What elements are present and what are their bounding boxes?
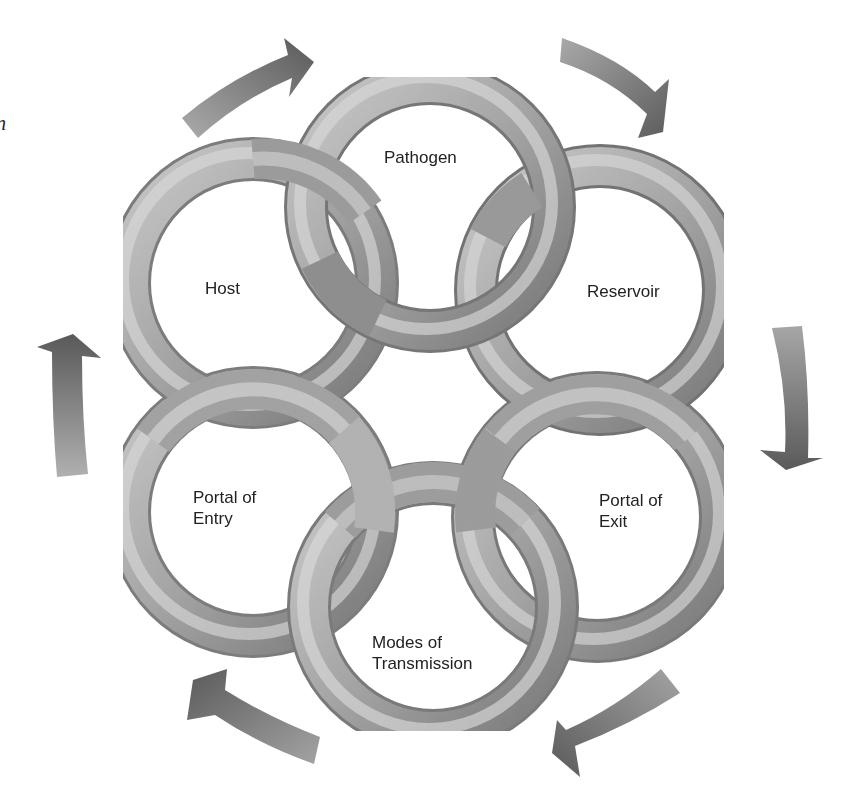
arrow-pathogen-to-reservoir-icon	[560, 38, 669, 138]
arrow-exit-to-transmission-icon	[552, 669, 680, 777]
chain-of-infection-diagram: Pathogen Host Reservoir Portal of Entry …	[0, 0, 856, 801]
label-pathogen: Pathogen	[384, 147, 457, 168]
label-reservoir: Reservoir	[587, 281, 660, 302]
arrow-entry-to-host-icon	[37, 334, 101, 477]
label-modes-of-transmission: Modes of Transmission	[372, 632, 472, 674]
label-portal-of-entry: Portal of Entry	[193, 487, 256, 529]
label-host: Host	[205, 278, 240, 299]
arrow-transmission-to-entry-icon	[187, 669, 320, 764]
label-portal-of-exit: Portal of Exit	[599, 490, 662, 532]
ring-reservoir-overlap	[488, 190, 532, 238]
diagram-canvas	[0, 0, 856, 801]
arrow-reservoir-to-exit-icon	[760, 326, 823, 470]
cropped-text-fragment: n	[0, 112, 6, 135]
arrow-host-to-pathogen-icon	[182, 38, 314, 138]
